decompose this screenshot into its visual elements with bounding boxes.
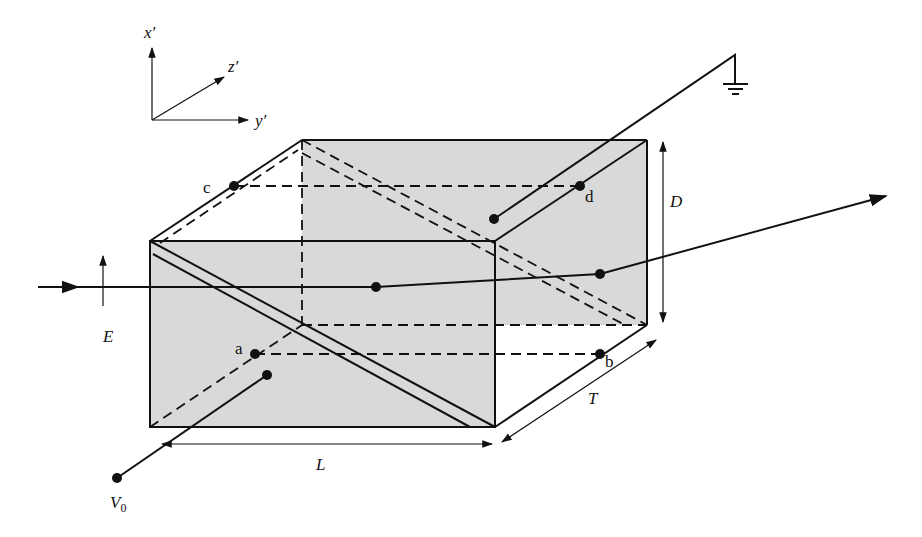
- label-d: d: [585, 187, 594, 206]
- electro-optic-crystal-diagram: x′ y′ z′: [0, 0, 922, 537]
- ground-icon: [723, 84, 748, 94]
- point-d: [575, 181, 585, 191]
- ground-contact: [489, 214, 499, 224]
- coordinate-axes: x′ y′ z′: [143, 23, 267, 130]
- point-c: [229, 181, 239, 191]
- z-axis-label: z′: [227, 57, 239, 76]
- label-T: T: [588, 389, 599, 408]
- y-axis-label: y′: [253, 111, 267, 130]
- label-a: a: [235, 339, 243, 358]
- v0-terminal: [112, 473, 122, 483]
- beam-point-exit: [595, 269, 605, 279]
- label-V0: V0: [110, 493, 126, 515]
- crystal-shading: [150, 140, 647, 427]
- beam-point-center: [371, 282, 381, 292]
- label-E: E: [102, 327, 114, 346]
- point-b: [595, 349, 605, 359]
- x-axis-label: x′: [143, 23, 156, 42]
- z-axis-arrow: [152, 77, 224, 120]
- point-a: [250, 349, 260, 359]
- v0-contact: [262, 370, 272, 380]
- label-D: D: [669, 192, 683, 211]
- label-c: c: [203, 178, 211, 197]
- label-L: L: [315, 455, 325, 474]
- label-b: b: [605, 352, 614, 371]
